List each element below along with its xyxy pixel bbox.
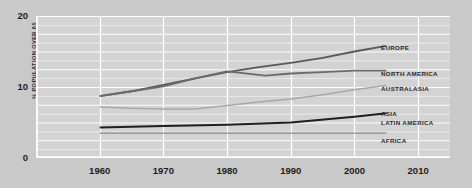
x-tick-1960: 1960: [78, 166, 122, 176]
series-label-asia: ASIA: [381, 111, 397, 117]
x-tick-2000: 2000: [332, 166, 376, 176]
series-label-africa: AFRICA: [381, 138, 406, 144]
x-tick-1970: 1970: [141, 166, 185, 176]
x-tick-1980: 1980: [205, 166, 249, 176]
y-tick-0: 0: [0, 153, 28, 163]
series-label-australasia: AUSTRALASIA: [381, 86, 429, 92]
series-label-europe: EUROPE: [381, 45, 409, 51]
series-line-asia: [100, 113, 387, 127]
x-tick-1990: 1990: [269, 166, 313, 176]
y-tick-20: 20: [0, 11, 28, 21]
series-label-north-america: NORTH AMERICA: [381, 71, 438, 77]
series-line-north-america: [100, 71, 387, 97]
y-tick-10: 10: [0, 82, 28, 92]
population-over-65-line-chart: % POPULATION OVER 65 01020 1960197019801…: [0, 0, 472, 188]
series-label-latin-america: LATIN AMERICA: [381, 120, 434, 126]
x-tick-2010: 2010: [396, 166, 440, 176]
